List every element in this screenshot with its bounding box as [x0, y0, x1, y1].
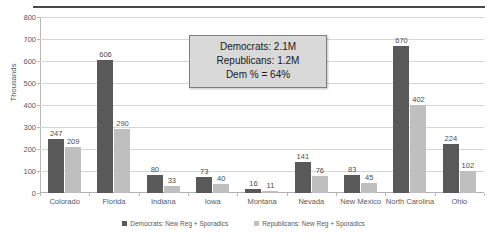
bar-value-label: 40 [217, 174, 225, 183]
bar-republicans[interactable]: 290 [114, 129, 130, 193]
bar-republicans[interactable]: 11 [262, 191, 278, 193]
bar-value-label: 16 [249, 179, 257, 188]
x-axis-tick-mark [237, 193, 238, 196]
bar-value-label: 209 [67, 137, 80, 146]
x-axis-category-label: New Mexico [336, 197, 385, 206]
bar-democrats[interactable]: 16 [245, 189, 261, 193]
callout-line-dem-percent: Dem % = 64% [190, 68, 326, 82]
x-axis-category-label: Iowa [188, 197, 237, 206]
y-axis-tick-label: 100 [23, 167, 36, 176]
y-axis-tick-label: 600 [23, 57, 36, 66]
bar-value-label: 80 [151, 165, 159, 174]
callout-line-republicans: Republicans: 1.2M [190, 54, 326, 68]
top-divider-rule [33, 6, 485, 8]
bar-republicans[interactable]: 76 [312, 176, 328, 193]
bar-democrats[interactable]: 83 [344, 175, 360, 193]
bar-democrats[interactable]: 73 [196, 177, 212, 193]
y-axis-tick-label: 700 [23, 35, 36, 44]
bar-group: 247209 [40, 17, 89, 193]
x-axis-category-label: Colorado [40, 197, 89, 206]
bar-value-label: 73 [200, 167, 208, 176]
bar-democrats[interactable]: 247 [48, 139, 64, 193]
bar-value-label: 33 [168, 176, 176, 185]
bar-value-label: 11 [267, 181, 275, 190]
x-axis-category-label: Ohio [435, 197, 484, 206]
x-axis-tick-mark [89, 193, 90, 196]
bar-value-label: 83 [348, 165, 356, 174]
x-axis-tick-mark [40, 193, 41, 196]
summary-callout: Democrats: 2.1M Republicans: 1.2M Dem % … [189, 35, 327, 88]
bar-republicans[interactable]: 102 [460, 171, 476, 193]
bar-value-label: 670 [395, 36, 408, 45]
bar-group: 8033 [139, 17, 188, 193]
bar-value-label: 102 [462, 161, 475, 170]
bar-democrats[interactable]: 670 [393, 46, 409, 193]
bar-value-label: 141 [297, 152, 310, 161]
legend-label-democrats: Democrats: New Reg + Sporadics [130, 220, 228, 227]
bar-republicans[interactable]: 402 [410, 105, 426, 193]
x-axis-category-label: Florida [89, 197, 138, 206]
y-axis-tick-label: 800 [23, 13, 36, 22]
bar-value-label: 224 [445, 134, 458, 143]
y-axis-tick-label: 300 [23, 123, 36, 132]
y-axis-tick-label: 400 [23, 101, 36, 110]
callout-line-democrats: Democrats: 2.1M [190, 40, 326, 54]
x-axis-tick-mark [435, 193, 436, 196]
x-axis-category-label: North Carolina [385, 197, 434, 206]
x-axis-category-label: Indiana [139, 197, 188, 206]
bar-value-label: 606 [99, 50, 112, 59]
bar-value-label: 402 [412, 95, 425, 104]
x-axis-tick-mark [484, 193, 485, 196]
x-axis-tick-mark [385, 193, 386, 196]
bar-value-label: 76 [316, 166, 324, 175]
bar-value-label: 247 [50, 129, 63, 138]
bar-republicans[interactable]: 209 [65, 147, 81, 193]
bar-democrats[interactable]: 80 [147, 175, 163, 193]
bar-democrats[interactable]: 606 [97, 60, 113, 193]
bar-republicans[interactable]: 45 [361, 183, 377, 193]
chart-legend: Democrats: New Reg + Sporadics Republica… [0, 220, 487, 227]
legend-item-democrats[interactable]: Democrats: New Reg + Sporadics [122, 220, 228, 227]
bar-chart: Thousands 010020030040050060070080024720… [0, 0, 487, 237]
legend-swatch-icon-republicans [254, 221, 259, 226]
y-axis-tick-label: 200 [23, 145, 36, 154]
x-axis-tick-mark [287, 193, 288, 196]
bar-republicans[interactable]: 40 [213, 184, 229, 193]
x-axis-category-label: Montana [237, 197, 286, 206]
y-axis-tick-label: 500 [23, 79, 36, 88]
y-axis-title: Thousands [9, 48, 18, 118]
bar-value-label: 290 [116, 119, 129, 128]
bar-group: 8345 [336, 17, 385, 193]
legend-item-republicans[interactable]: Republicans: New Reg + Sporadics [254, 220, 364, 227]
x-axis-tick-mark [188, 193, 189, 196]
legend-label-republicans: Republicans: New Reg + Sporadics [262, 220, 364, 227]
bar-group: 224102 [435, 17, 484, 193]
bar-democrats[interactable]: 141 [295, 162, 311, 193]
x-axis-category-label: Nevada [287, 197, 336, 206]
y-axis-tick-label: 0 [32, 189, 36, 198]
x-axis-tick-mark [139, 193, 140, 196]
bar-republicans[interactable]: 33 [164, 186, 180, 193]
bar-group: 670402 [385, 17, 434, 193]
bar-value-label: 45 [365, 173, 373, 182]
x-axis-tick-mark [336, 193, 337, 196]
bar-democrats[interactable]: 224 [443, 144, 459, 193]
bar-group: 606290 [89, 17, 138, 193]
legend-swatch-icon-democrats [122, 221, 127, 226]
